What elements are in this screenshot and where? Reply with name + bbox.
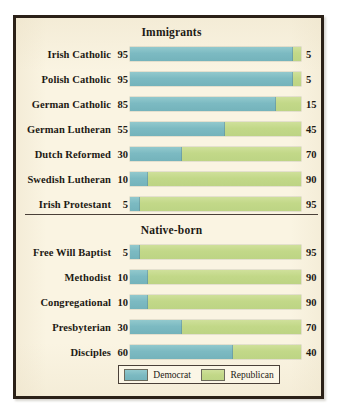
bar-segment-republican [293, 47, 302, 61]
stacked-bar [130, 97, 301, 111]
bar-segment-democrat [130, 345, 233, 359]
bar-value-republican: 40 [306, 347, 321, 358]
stacked-bar [130, 72, 301, 86]
bar-row-label: Dutch Reformed [16, 149, 111, 160]
bar-row: Swedish Lutheran1090 [16, 169, 321, 194]
stacked-bar [130, 245, 301, 259]
bar-segment-democrat [130, 197, 140, 211]
bar-value-republican: 5 [306, 49, 321, 60]
bar-segment-republican [182, 147, 301, 161]
bar-value-democrat: 30 [113, 322, 128, 333]
bar-segment-republican [148, 270, 301, 284]
bar-value-democrat: 95 [113, 49, 128, 60]
bar-segment-republican [140, 197, 302, 211]
chart-figure: Immigrants Irish Catholic955Polish Catho… [0, 0, 338, 412]
bar-value-democrat: 5 [113, 247, 128, 258]
bar-value-democrat: 5 [113, 199, 128, 210]
stacked-bar [130, 147, 301, 161]
bar-segment-republican [140, 245, 302, 259]
bar-value-republican: 5 [306, 74, 321, 85]
bar-segment-democrat [130, 147, 182, 161]
legend-label-democrat: Democrat [153, 370, 190, 380]
bar-row-label: German Lutheran [16, 124, 111, 135]
section-title-native-born: Native-born [16, 224, 321, 236]
bar-value-democrat: 10 [113, 174, 128, 185]
chart-frame: Immigrants Irish Catholic955Polish Catho… [13, 15, 324, 399]
bar-row-label: Swedish Lutheran [16, 174, 111, 185]
bar-row: Dutch Reformed3070 [16, 144, 321, 169]
bar-value-republican: 70 [306, 149, 321, 160]
bar-row: Presbyterian3070 [16, 317, 321, 342]
bar-segment-democrat [130, 47, 293, 61]
bar-value-democrat: 60 [113, 347, 128, 358]
bar-segment-democrat [130, 122, 225, 136]
bar-value-democrat: 95 [113, 74, 128, 85]
bar-row-label: Disciples [16, 347, 111, 358]
chart-legend: Democrat Republican [118, 365, 280, 384]
bar-value-republican: 45 [306, 124, 321, 135]
bar-segment-republican [276, 97, 302, 111]
bar-row-label: Free Will Baptist [16, 247, 111, 258]
bar-row: Polish Catholic955 [16, 69, 321, 94]
bar-value-republican: 95 [306, 199, 321, 210]
bar-segment-democrat [130, 320, 182, 334]
stacked-bar [130, 320, 301, 334]
stacked-bar [130, 270, 301, 284]
bar-value-republican: 90 [306, 297, 321, 308]
section-divider [25, 214, 318, 215]
bar-value-republican: 90 [306, 272, 321, 283]
stacked-bar [130, 122, 301, 136]
chart-inner-panel: Immigrants Irish Catholic955Polish Catho… [16, 18, 321, 396]
bar-value-democrat: 30 [113, 149, 128, 160]
bar-row-label: Irish Protestant [16, 199, 111, 210]
bar-segment-democrat [130, 97, 276, 111]
bar-row: Congregational1090 [16, 292, 321, 317]
legend-item-republican: Republican [201, 369, 273, 381]
bar-segment-republican [148, 295, 301, 309]
bar-row-label: Methodist [16, 272, 111, 283]
stacked-bar [130, 345, 301, 359]
bar-segment-democrat [130, 270, 148, 284]
bar-row: Disciples6040 [16, 342, 321, 367]
bar-value-democrat: 85 [113, 99, 128, 110]
bar-segment-democrat [130, 295, 148, 309]
bar-segment-republican [233, 345, 301, 359]
bar-value-republican: 90 [306, 174, 321, 185]
bar-value-democrat: 10 [113, 297, 128, 308]
bar-segment-republican [148, 172, 301, 186]
bar-segment-democrat [130, 172, 148, 186]
bar-value-democrat: 10 [113, 272, 128, 283]
bar-segment-republican [225, 122, 302, 136]
bar-row-label: Polish Catholic [16, 74, 111, 85]
bar-segment-republican [293, 72, 302, 86]
stacked-bar [130, 172, 301, 186]
bar-row-label: German Catholic [16, 99, 111, 110]
bar-segment-democrat [130, 72, 293, 86]
legend-swatch-republican [201, 369, 225, 381]
bar-value-democrat: 55 [113, 124, 128, 135]
legend-label-republican: Republican [230, 370, 273, 380]
legend-swatch-democrat [124, 369, 148, 381]
stacked-bar [130, 47, 301, 61]
bar-row: German Catholic8515 [16, 94, 321, 119]
bar-row: Irish Protestant595 [16, 194, 321, 219]
bar-row: Irish Catholic955 [16, 44, 321, 69]
bar-row-label: Presbyterian [16, 322, 111, 333]
bar-row: Methodist1090 [16, 267, 321, 292]
stacked-bar [130, 197, 301, 211]
bar-segment-republican [182, 320, 301, 334]
bar-value-republican: 95 [306, 247, 321, 258]
bar-row-label: Congregational [16, 297, 111, 308]
stacked-bar [130, 295, 301, 309]
bar-row: Free Will Baptist595 [16, 242, 321, 267]
bar-segment-democrat [130, 245, 140, 259]
bar-value-republican: 15 [306, 99, 321, 110]
bar-value-republican: 70 [306, 322, 321, 333]
legend-item-democrat: Democrat [124, 369, 190, 381]
bar-row: German Lutheran5545 [16, 119, 321, 144]
bar-row-label: Irish Catholic [16, 49, 111, 60]
section-title-immigrants: Immigrants [16, 26, 321, 38]
